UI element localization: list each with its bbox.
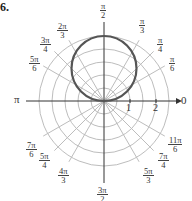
polar-plot	[0, 0, 192, 201]
angle-label-pi-2: π2	[100, 2, 106, 19]
label-pi: π	[14, 93, 20, 105]
angle-label-3pi-2: 3π2	[97, 186, 108, 201]
angle-label-3pi-4: 3π4	[40, 36, 51, 53]
angle-label-7pi-6: 7π6	[26, 141, 37, 158]
label-zero: 0	[181, 94, 187, 106]
angle-label-pi-4: π4	[157, 36, 163, 53]
problem-number: 6.	[0, 0, 9, 15]
angle-label-11pi-6: 11π6	[168, 136, 182, 153]
angle-label-4pi-3: 4π3	[58, 167, 69, 184]
angle-label-pi-3: π3	[139, 17, 145, 34]
radial-tick-2: 2	[153, 102, 158, 113]
angle-label-2pi-3: 2π3	[57, 22, 68, 39]
angle-label-5pi-6: 5π6	[29, 55, 40, 72]
angle-label-pi-6: π6	[169, 55, 175, 72]
angle-label-5pi-3: 5π3	[143, 167, 154, 184]
angle-label-7pi-4: 7π4	[158, 152, 169, 169]
radial-tick-1: 1	[126, 102, 131, 113]
angle-label-5pi-4: 5π4	[39, 152, 50, 169]
